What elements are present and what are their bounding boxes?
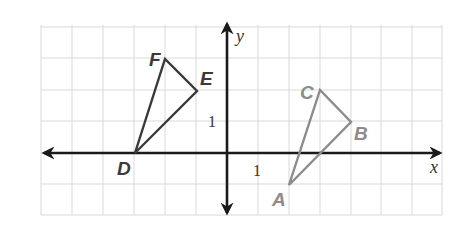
coordinate-plane: y x 1 1 D E F A B C [0, 0, 463, 228]
vertex-label-f: F [149, 49, 162, 70]
x-axis-label: x [429, 157, 438, 177]
vertex-label-b: B [354, 123, 368, 144]
y-tick-label-1: 1 [208, 113, 216, 130]
y-axis-label: y [234, 26, 244, 46]
x-tick-label-1: 1 [253, 162, 261, 179]
grid [41, 25, 442, 215]
triangle-def [135, 59, 197, 153]
vertex-label-e: E [200, 68, 214, 89]
vertex-label-a: A [271, 189, 286, 210]
vertex-label-d: D [117, 158, 131, 179]
vertex-label-c: C [300, 82, 314, 103]
